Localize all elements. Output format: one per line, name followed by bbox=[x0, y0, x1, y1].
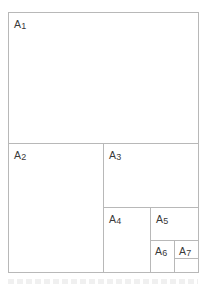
paper-size-a2: A2 bbox=[8, 143, 104, 273]
label-a4: A4 bbox=[109, 213, 121, 225]
paper-size-a3: A3 bbox=[103, 143, 199, 208]
label-number: 2 bbox=[21, 152, 26, 162]
label-a2: A2 bbox=[14, 149, 26, 161]
paper-size-a7: A7 bbox=[174, 240, 199, 259]
label-a3: A3 bbox=[109, 149, 121, 161]
paper-size-a1: A1 bbox=[8, 12, 199, 144]
label-number: 3 bbox=[116, 152, 121, 162]
cropped-caption-top bbox=[8, 0, 68, 3]
label-a6: A6 bbox=[155, 245, 167, 257]
label-number: 6 bbox=[162, 248, 167, 258]
label-a5: A5 bbox=[156, 213, 168, 225]
label-number: 1 bbox=[21, 21, 26, 31]
label-number: 4 bbox=[116, 216, 121, 226]
paper-size-a6: A6 bbox=[150, 240, 175, 273]
label-a1: A1 bbox=[14, 18, 26, 30]
paper-size-a5: A5 bbox=[150, 207, 199, 241]
label-a7: A7 bbox=[179, 245, 191, 257]
label-number: 7 bbox=[186, 248, 191, 258]
paper-size-a4: A4 bbox=[103, 207, 151, 273]
cropped-caption-bottom bbox=[8, 279, 198, 284]
label-number: 5 bbox=[163, 216, 168, 226]
paper-size-remainder bbox=[174, 258, 199, 273]
